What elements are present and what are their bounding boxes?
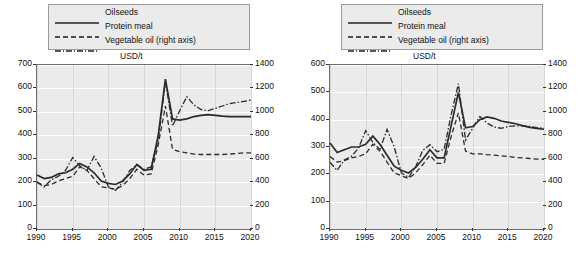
y-axis-tick-label: 500 — [6, 105, 32, 115]
y-axis-tick-label: 400 — [6, 128, 32, 138]
x-axis-tick-label: 2020 — [235, 232, 265, 242]
y-axis-tick-label: 500 — [299, 85, 325, 95]
legend-left: Oilseeds Protein meal Vegetable oil (rig… — [48, 4, 250, 50]
x-axis-tick-label: 2005 — [421, 232, 451, 242]
x-axis-tick-label: 2015 — [199, 232, 229, 242]
y2-axis-tick-label: 1000 — [548, 105, 578, 115]
series-layer — [37, 65, 251, 229]
axis-title-left: USD/t — [120, 51, 143, 61]
y2-axis-tick — [250, 181, 253, 182]
x-axis-tick — [72, 228, 73, 231]
x-axis-tick — [543, 228, 544, 231]
y-axis-tick — [326, 119, 329, 120]
x-axis-tick — [36, 228, 37, 231]
y2-axis-tick — [543, 158, 546, 159]
legend-label-vegetable-oil: Vegetable oil (right axis) — [105, 34, 196, 46]
y2-axis-tick — [543, 111, 546, 112]
y2-axis-tick-label: 1200 — [548, 81, 578, 91]
series-line — [330, 92, 544, 173]
x-axis-tick-label: 2010 — [457, 232, 487, 242]
y-axis-tick — [326, 146, 329, 147]
x-axis-tick-label: 2000 — [385, 232, 415, 242]
x-axis-tick-label: 1990 — [21, 232, 51, 242]
y-axis-tick-label: 400 — [299, 113, 325, 123]
x-axis-tick-label: 1995 — [350, 232, 380, 242]
y-axis-tick-label: 600 — [299, 58, 325, 68]
y-axis-tick — [33, 134, 36, 135]
chart-panel-right: Oilseeds Protein meal Vegetable oil (rig… — [293, 0, 585, 269]
y-axis-tick-label: 300 — [6, 152, 32, 162]
y2-axis-tick-label: 400 — [255, 175, 285, 185]
figure-root: Oilseeds Protein meal Vegetable oil (rig… — [0, 0, 585, 269]
legend-label-protein-meal: Protein meal — [105, 20, 153, 32]
x-axis-tick-label: 2015 — [492, 232, 522, 242]
y2-axis-tick — [543, 134, 546, 135]
y-axis-tick — [326, 201, 329, 202]
y2-axis-tick-label: 400 — [548, 175, 578, 185]
series-line — [37, 106, 251, 189]
y2-axis-tick-label: 600 — [255, 152, 285, 162]
legend-item-oilseeds: Oilseeds — [348, 6, 542, 19]
x-axis-tick — [250, 228, 251, 231]
y2-axis-tick-label: 1000 — [255, 105, 285, 115]
series-layer — [330, 65, 544, 229]
x-axis-tick-label: 2000 — [92, 232, 122, 242]
x-axis-tick-label: 2020 — [528, 232, 558, 242]
x-axis-tick — [436, 228, 437, 231]
y2-axis-tick-label: 600 — [548, 152, 578, 162]
y2-axis-tick-label: 800 — [548, 128, 578, 138]
y2-axis-tick-label: 0 — [255, 222, 285, 232]
legend-label-vegetable-oil: Vegetable oil (right axis) — [398, 34, 489, 46]
y-axis-tick-label: 100 — [6, 199, 32, 209]
y2-axis-tick-label: 0 — [548, 222, 578, 232]
y2-axis-tick — [543, 64, 546, 65]
y-axis-tick — [33, 87, 36, 88]
x-axis-tick-label: 1990 — [314, 232, 344, 242]
y2-axis-tick — [543, 205, 546, 206]
y-axis-tick-label: 0 — [6, 222, 32, 232]
y-axis-tick-label: 0 — [299, 222, 325, 232]
y2-axis-tick — [250, 158, 253, 159]
x-axis-tick-label: 2010 — [164, 232, 194, 242]
y2-axis-tick — [543, 87, 546, 88]
x-axis-tick — [507, 228, 508, 231]
x-axis-tick-label: 2005 — [128, 232, 158, 242]
y-axis-tick — [33, 64, 36, 65]
y2-axis-tick-label: 200 — [255, 199, 285, 209]
x-axis-tick — [329, 228, 330, 231]
y2-axis-tick-label: 1200 — [255, 81, 285, 91]
y2-axis-tick-label: 800 — [255, 128, 285, 138]
y-axis-tick — [326, 91, 329, 92]
plot-area-left — [36, 64, 252, 230]
y2-axis-tick-label: 1400 — [548, 58, 578, 68]
y2-axis-tick-label: 200 — [548, 199, 578, 209]
y-axis-tick — [33, 158, 36, 159]
y-axis-tick-label: 700 — [6, 58, 32, 68]
legend-item-vegetable-oil: Vegetable oil (right axis) — [348, 34, 542, 47]
x-axis-tick — [179, 228, 180, 231]
x-axis-tick — [365, 228, 366, 231]
series-line — [37, 81, 251, 190]
legend-item-protein-meal: Protein meal — [55, 20, 249, 33]
y-axis-tick — [33, 181, 36, 182]
x-axis-tick-label: 1995 — [57, 232, 87, 242]
axis-title-right: USD/t — [413, 51, 436, 61]
y-axis-tick-label: 300 — [299, 140, 325, 150]
y-axis-tick-label: 100 — [299, 195, 325, 205]
y-axis-tick — [33, 111, 36, 112]
y2-axis-tick — [250, 134, 253, 135]
plot-area-right — [329, 64, 545, 230]
legend-right: Oilseeds Protein meal Vegetable oil (rig… — [341, 4, 543, 50]
x-axis-tick — [400, 228, 401, 231]
x-axis-tick — [214, 228, 215, 231]
legend-label-protein-meal: Protein meal — [398, 20, 446, 32]
x-axis-tick — [472, 228, 473, 231]
x-axis-tick — [107, 228, 108, 231]
x-axis-tick — [143, 228, 144, 231]
y2-axis-tick — [543, 181, 546, 182]
y2-axis-tick — [250, 87, 253, 88]
legend-item-vegetable-oil: Vegetable oil (right axis) — [55, 34, 249, 47]
y-axis-tick — [326, 64, 329, 65]
y-axis-tick-label: 200 — [6, 175, 32, 185]
legend-item-oilseeds: Oilseeds — [55, 6, 249, 19]
